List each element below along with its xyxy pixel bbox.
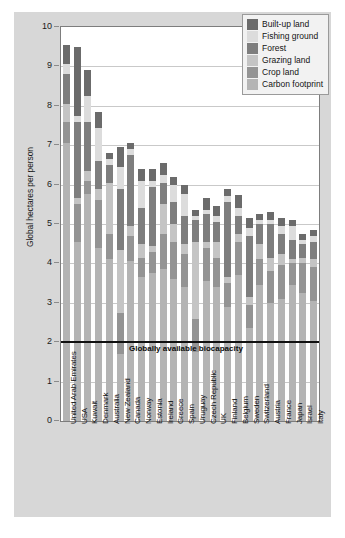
bar-segment xyxy=(224,189,231,197)
x-tick-label: Switzerland xyxy=(262,384,271,424)
bar[interactable] xyxy=(149,169,156,421)
bar-segment xyxy=(299,244,306,258)
x-tick-label: UK xyxy=(219,413,228,424)
bar[interactable] xyxy=(84,70,91,421)
bar-segment xyxy=(181,244,188,254)
x-tick-label: New Zealand xyxy=(123,379,132,425)
bar-segment xyxy=(235,216,242,234)
legend-swatch-icon xyxy=(247,19,258,30)
bar-segment xyxy=(192,220,199,242)
bar-segment xyxy=(213,206,220,216)
y-tick-label: 2 xyxy=(14,336,52,346)
y-tick-label: 10 xyxy=(14,21,52,31)
bar-segment xyxy=(256,259,263,285)
bar-segment xyxy=(213,222,220,242)
bar-segment xyxy=(299,293,306,421)
x-tick-label: Austria xyxy=(273,400,282,424)
legend-swatch-icon xyxy=(247,55,258,66)
y-tick-label: 8 xyxy=(14,100,52,110)
bar[interactable] xyxy=(106,153,113,421)
biocapacity-label: Globally available biocapacity xyxy=(129,344,243,353)
y-tick-mark xyxy=(54,184,59,185)
legend-swatch-icon xyxy=(247,43,258,54)
y-tick-mark xyxy=(54,65,59,66)
bar-segment xyxy=(127,155,134,226)
bar[interactable] xyxy=(310,230,317,421)
bar-segment xyxy=(138,208,145,243)
legend-item[interactable]: Fishing ground xyxy=(247,31,323,42)
legend-item[interactable]: Crop land xyxy=(247,67,323,78)
bar-segment xyxy=(138,181,145,209)
bar[interactable] xyxy=(278,218,285,421)
bar-segment xyxy=(63,122,70,144)
bar-segment xyxy=(310,267,317,300)
bar[interactable] xyxy=(192,210,199,421)
bar-segment xyxy=(95,112,102,128)
bar-segment xyxy=(138,244,145,258)
y-tick-mark xyxy=(54,302,59,303)
bar-segment xyxy=(181,185,188,195)
x-axis-labels: United Arab EmiratesUSAKuwaitDenmarkAust… xyxy=(60,422,318,514)
bar-segment xyxy=(299,263,306,293)
bar-segment xyxy=(246,218,253,228)
bar[interactable] xyxy=(181,185,188,421)
bar[interactable] xyxy=(246,218,253,421)
bar-segment xyxy=(74,122,81,199)
bar[interactable] xyxy=(224,189,231,421)
bar[interactable] xyxy=(170,177,177,421)
bar-segment xyxy=(63,64,70,74)
bar-segment xyxy=(149,187,156,246)
bar-segment xyxy=(213,242,220,258)
y-tick-mark xyxy=(54,341,59,342)
y-tick-mark xyxy=(54,420,59,421)
bar-segment xyxy=(246,297,253,305)
legend-swatch-icon xyxy=(247,79,258,90)
bar[interactable] xyxy=(95,112,102,421)
bar[interactable] xyxy=(160,163,167,421)
biocapacity-line xyxy=(61,341,319,343)
legend-label: Grazing land xyxy=(262,55,310,66)
bar-segment xyxy=(246,228,253,236)
bar-segment xyxy=(63,74,70,104)
bar-segment xyxy=(160,183,167,205)
bar-segment xyxy=(149,252,156,274)
bar[interactable] xyxy=(299,234,306,421)
bar-segment xyxy=(278,226,285,234)
x-tick-label: Norway xyxy=(144,398,153,424)
bar-segment xyxy=(224,202,231,277)
bar-segment xyxy=(203,198,210,210)
bar-segment xyxy=(278,254,285,266)
bar-segment xyxy=(160,204,167,234)
bar-segment xyxy=(84,96,91,122)
bar-segment xyxy=(310,259,317,267)
legend-swatch-icon xyxy=(247,67,258,78)
bar-segment xyxy=(95,200,102,247)
x-tick-label: Czech Republic xyxy=(209,370,218,424)
bar-segment xyxy=(213,258,220,288)
bar-segment xyxy=(256,244,263,260)
bar-segment xyxy=(117,147,124,167)
x-tick-label: Spain xyxy=(187,404,196,424)
legend-label: Forest xyxy=(262,43,286,54)
bar-segment xyxy=(267,224,274,257)
bar-segment xyxy=(74,47,81,116)
legend-item[interactable]: Carbon footprint xyxy=(247,79,323,90)
x-tick-label: Australia xyxy=(112,394,121,424)
bar-segment xyxy=(84,122,91,171)
bar-segment xyxy=(84,70,91,96)
bar-segment xyxy=(127,236,134,262)
bar[interactable] xyxy=(138,169,145,421)
bar-segment xyxy=(117,189,124,250)
bar-segment xyxy=(203,248,210,281)
legend-item[interactable]: Grazing land xyxy=(247,55,323,66)
bar-segment xyxy=(170,242,177,279)
bar-segment xyxy=(246,236,253,297)
bar[interactable] xyxy=(235,195,242,422)
bar[interactable] xyxy=(289,220,296,421)
bar-segment xyxy=(170,177,177,185)
legend-item[interactable]: Built-up land xyxy=(247,19,323,30)
legend-item[interactable]: Forest xyxy=(247,43,323,54)
bar-segment xyxy=(246,305,253,329)
bar-segment xyxy=(235,208,242,216)
bar-segment xyxy=(181,254,188,287)
